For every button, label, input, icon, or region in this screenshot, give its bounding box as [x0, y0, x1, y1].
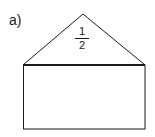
fraction-numerator: 1 [79, 25, 85, 37]
house-diagram [0, 0, 155, 137]
body-rectangle [24, 65, 146, 129]
fraction-denominator: 2 [79, 39, 85, 51]
fraction-label: 1 2 [75, 26, 89, 51]
